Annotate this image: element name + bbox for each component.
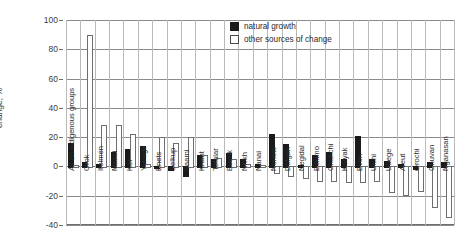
- x-axis-category-label: Evenk: [225, 150, 234, 171]
- category-separator: [425, 20, 426, 225]
- x-axis-category-label: Chukchi: [326, 144, 335, 171]
- y-tick-label: 20: [49, 132, 58, 142]
- category-separator: [95, 20, 96, 225]
- x-axis-category-label: Dolgan: [283, 147, 292, 171]
- x-axis-category-label: All 26 indigenous groups: [67, 88, 76, 171]
- x-axis-category-label: Enets: [154, 152, 163, 171]
- bar: [432, 166, 438, 208]
- outline-square-icon: [230, 35, 239, 44]
- y-tick-label: -20: [46, 191, 58, 201]
- bar: [446, 166, 452, 218]
- category-separator: [325, 20, 326, 225]
- category-separator: [138, 20, 139, 225]
- category-separator: [238, 20, 239, 225]
- category-separator: [296, 20, 297, 225]
- bar: [87, 35, 93, 169]
- x-axis-category-label: Yukagir: [139, 146, 148, 171]
- category-separator: [454, 20, 455, 225]
- x-axis-category-label: Saami: [182, 150, 191, 172]
- x-axis-category-label: Orochi: [412, 149, 421, 171]
- category-separator: [80, 20, 81, 225]
- y-tick-label: 100: [44, 15, 58, 25]
- x-axis-category-label: Selkup: [168, 148, 177, 171]
- category-separator: [152, 20, 153, 225]
- legend-label: natural growth: [244, 22, 296, 31]
- y-axis-ticks: 100806040200-20-40: [0, 0, 64, 244]
- gridline: [66, 225, 454, 226]
- chart-legend: natural growth other sources of change: [230, 20, 332, 46]
- category-separator: [382, 20, 383, 225]
- x-axis-category-label: Orok: [82, 155, 91, 171]
- y-tick-label: 40: [49, 103, 58, 113]
- category-separator: [123, 20, 124, 225]
- x-axis-category-label: Ulchi: [369, 155, 378, 172]
- x-axis-category-label: Even: [355, 154, 364, 171]
- y-tick-mark: [59, 225, 63, 226]
- x-axis-category-label: Udege: [384, 149, 393, 171]
- x-axis-category-label: Koryak: [340, 148, 349, 172]
- x-axis-category-label: Aleut: [398, 154, 407, 171]
- category-separator: [353, 20, 354, 225]
- y-tick-label: 0: [53, 161, 58, 171]
- category-separator: [210, 20, 211, 225]
- category-separator: [411, 20, 412, 225]
- y-tick-label: 60: [49, 74, 58, 84]
- x-axis-category-label: Khant: [197, 152, 206, 172]
- y-tick-label: -40: [46, 220, 58, 230]
- category-separator: [310, 20, 311, 225]
- x-axis-category-label: Nganasan: [441, 137, 450, 172]
- chart-container: change, % 100806040200-20-40 natural gro…: [0, 0, 466, 244]
- category-separator: [109, 20, 110, 225]
- x-axis-category-label: Eskimo: [312, 147, 321, 172]
- category-separator: [253, 20, 254, 225]
- legend-label: other sources of change: [244, 35, 332, 44]
- y-tick-mark: [59, 108, 63, 109]
- y-tick-mark: [59, 20, 63, 21]
- category-separator: [339, 20, 340, 225]
- y-tick-mark: [59, 79, 63, 80]
- y-tick-label: 80: [49, 44, 58, 54]
- x-axis-category-label: Nenets: [269, 147, 278, 171]
- y-tick-mark: [59, 196, 63, 197]
- category-separator: [224, 20, 225, 225]
- x-axis-category-label: Mansi: [110, 151, 119, 171]
- x-axis-category-label: Itelmen: [96, 147, 105, 172]
- x-axis-category-label: Nanai: [254, 152, 263, 172]
- filled-square-icon: [230, 22, 239, 31]
- category-separator: [397, 20, 398, 225]
- x-axis-category-label: Chuvan: [427, 145, 436, 171]
- x-axis-category-label: Ket: [125, 160, 134, 171]
- y-tick-mark: [59, 49, 63, 50]
- plot-area: [66, 20, 454, 225]
- category-separator: [267, 20, 268, 225]
- x-axis-category-label: Tofalar: [211, 149, 220, 172]
- category-separator: [440, 20, 441, 225]
- x-axis-category-label: Negidal: [297, 146, 306, 172]
- category-separator: [167, 20, 168, 225]
- category-separator: [368, 20, 369, 225]
- y-tick-mark: [59, 166, 63, 167]
- legend-item-natural-growth: natural growth: [230, 20, 332, 33]
- category-separator: [195, 20, 196, 225]
- legend-item-other-sources: other sources of change: [230, 33, 332, 46]
- category-separator: [181, 20, 182, 225]
- y-tick-mark: [59, 137, 63, 138]
- x-axis-category-label: Nivkh: [240, 152, 249, 171]
- category-separator: [282, 20, 283, 225]
